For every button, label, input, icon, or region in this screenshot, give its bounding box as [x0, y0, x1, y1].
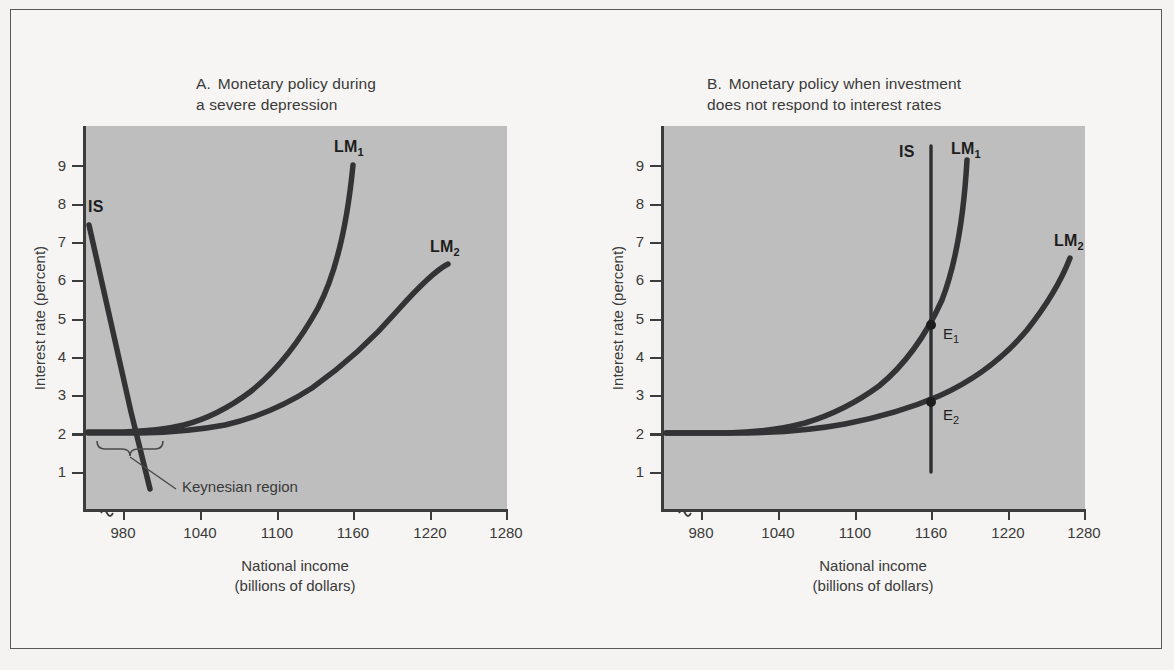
curve-label-lm2-text: LM [430, 238, 454, 255]
keynesian-region-annotation: Keynesian region [182, 478, 298, 495]
curve-lm2 [666, 258, 1070, 433]
panel-a: A.Monetary policy during a severe depres… [0, 0, 587, 670]
keynesian-brace [97, 441, 163, 456]
figure-root: A.Monetary policy during a severe depres… [0, 0, 1174, 670]
curve-label-lm1: LM1 [951, 140, 981, 160]
curve-label-is: IS [88, 198, 104, 216]
curve-label-lm1: LM1 [334, 138, 364, 158]
curve-label-lm1-sub: 1 [975, 148, 981, 160]
curve-label-lm2-sub: 2 [454, 246, 460, 258]
point-label-e1-text: E [943, 325, 953, 342]
curve-label-lm2-text: LM [1054, 232, 1078, 249]
point-label-e2-sub: 2 [953, 414, 959, 426]
point-label-e2: E2 [943, 406, 959, 426]
curve-lm2 [88, 264, 448, 433]
keynesian-leader-line [130, 457, 176, 489]
curve-label-is-text: IS [899, 143, 915, 160]
panel-a-curves [0, 0, 587, 670]
equilibrium-point-e2 [926, 397, 936, 407]
curve-label-is-text: IS [88, 198, 104, 215]
curve-label-lm2: LM2 [430, 238, 460, 258]
curve-label-lm2-sub: 2 [1078, 240, 1084, 252]
panel-b: B.Monetary policy when investment does n… [587, 0, 1174, 670]
point-label-e1: E1 [943, 325, 959, 345]
curve-label-lm2: LM2 [1054, 232, 1084, 252]
curve-label-lm1-sub: 1 [358, 146, 364, 158]
panel-a-axis-break-icon [101, 510, 113, 516]
curve-lm1 [666, 160, 967, 433]
curve-label-lm1-text: LM [334, 138, 358, 155]
equilibrium-point-e1 [926, 320, 936, 330]
curve-label-lm1-text: LM [951, 140, 975, 157]
panel-b-axis-break-icon [679, 510, 691, 516]
point-label-e2-text: E [943, 406, 953, 423]
panel-b-curves [587, 0, 1174, 670]
curve-label-is: IS [899, 143, 915, 161]
point-label-e1-sub: 1 [953, 333, 959, 345]
